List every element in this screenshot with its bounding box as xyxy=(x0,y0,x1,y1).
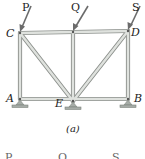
joint-label-c: C xyxy=(6,28,14,39)
joint-label-d: D xyxy=(131,27,140,38)
joint-label-e: E xyxy=(55,98,63,109)
load-label-p: P xyxy=(22,2,29,13)
next-figure-label-p: P xyxy=(5,152,12,159)
joint-label-b: B xyxy=(134,93,142,104)
figure-caption: (a) xyxy=(66,124,80,134)
load-label-s: S xyxy=(132,2,140,13)
truss-diagram xyxy=(0,0,145,159)
next-figure-label-q: Q xyxy=(58,152,67,159)
next-figure-label-s: S xyxy=(112,152,120,159)
joint-label-a: A xyxy=(6,93,14,104)
load-label-q: Q xyxy=(71,2,80,13)
